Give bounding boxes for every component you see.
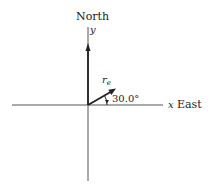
east-label: East [177, 98, 202, 111]
north-label: North [76, 10, 109, 23]
re-label-sub: e [107, 79, 111, 87]
arc-arrow-icon [105, 100, 109, 104]
re-label: re [102, 74, 111, 87]
y-label: y [89, 24, 96, 35]
arrowhead-icon [86, 43, 91, 51]
angle-label: 30.0° [112, 93, 139, 104]
vector-diagram: North y re 30.0° x East [0, 0, 213, 190]
x-label: x [168, 99, 174, 110]
north-vector [86, 43, 91, 105]
